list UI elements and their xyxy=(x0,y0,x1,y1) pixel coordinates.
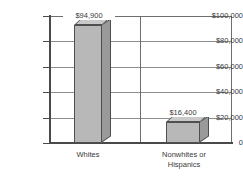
y-axis-label-60000: $60,000 xyxy=(197,63,243,71)
y-axis-label-80000: $80,000 xyxy=(197,37,243,45)
y-tick-80000 xyxy=(43,41,50,42)
bar-nonwhites-or-hispanics[interactable] xyxy=(166,122,200,143)
y-axis-label-100000: $100,000 xyxy=(197,12,243,20)
y-tick-100000 xyxy=(43,16,50,17)
category-separator-line xyxy=(140,16,141,143)
bar-value-label-whites: $94,900 xyxy=(63,12,115,20)
category-label-nonwhites: Nonwhites or Hispanics xyxy=(148,150,220,169)
y-tick-0 xyxy=(43,143,50,144)
bar-whites[interactable] xyxy=(74,25,102,143)
bar-nonwhites-front-face xyxy=(166,122,200,143)
y-tick-40000 xyxy=(43,92,50,93)
y-tick-20000 xyxy=(43,118,50,119)
bar-chart: $100,000 $80,000 $60,000 $40,000 $20,000… xyxy=(0,0,243,185)
y-axis-label-0: 0 xyxy=(197,139,243,147)
bar-whites-side-face xyxy=(101,18,111,143)
bar-whites-front-face xyxy=(74,25,102,143)
y-tick-60000 xyxy=(43,67,50,68)
bar-value-label-nonwhites: $16,400 xyxy=(155,109,211,117)
category-label-whites: Whites xyxy=(61,150,115,160)
y-axis-line xyxy=(49,15,51,144)
y-axis-label-40000: $40,000 xyxy=(197,88,243,96)
plot-right-border xyxy=(231,16,232,143)
category-label-nonwhites-line1: Nonwhites or xyxy=(148,150,220,160)
category-label-nonwhites-line2: Hispanics xyxy=(148,160,220,170)
